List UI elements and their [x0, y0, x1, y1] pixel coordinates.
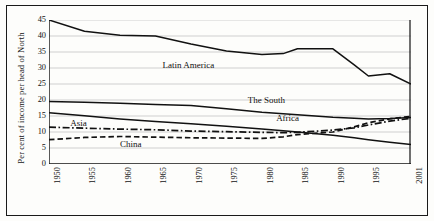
series-label-latin-america: Latin America: [163, 60, 215, 70]
x-axis-tick-labels: 1950195519601965197019751980198519901995…: [49, 167, 411, 211]
x-tick-label: 1995: [372, 167, 381, 184]
y-tick-label: 40: [38, 32, 46, 40]
series-line-africa: [49, 113, 411, 145]
y-tick-label: 45: [38, 16, 46, 24]
y-axis-tick-labels: 051015202530354045: [25, 20, 46, 164]
y-tick-label: 15: [38, 112, 46, 120]
y-tick-label: 30: [38, 64, 46, 72]
series-line-china: [49, 116, 411, 139]
series-label-asia: Asia: [70, 118, 87, 128]
series-label-china: China: [120, 139, 142, 149]
x-tick-label: 1990: [337, 167, 346, 184]
line-chart-svg: [49, 20, 411, 164]
series-label-the-south: The South: [248, 95, 285, 105]
y-tick-label: 20: [38, 96, 46, 104]
series-label-africa: Africa: [276, 113, 299, 123]
y-tick-label: 35: [38, 48, 46, 56]
x-tick-label: 1970: [195, 167, 204, 184]
chart-figure: Per cent of income per head of North 051…: [0, 0, 434, 221]
x-tick-label: 1960: [124, 167, 133, 184]
gridlines: [49, 20, 411, 164]
series-paths: [49, 20, 411, 144]
y-tick-label: 25: [38, 80, 46, 88]
x-tick-label: 1980: [266, 167, 275, 184]
y-tick-label: 5: [42, 144, 46, 152]
x-tick-label: 1985: [301, 167, 310, 184]
plot-area: Latin AmericaThe SouthAfricaAsiaChina: [49, 20, 411, 164]
y-tick-label: 10: [38, 128, 46, 136]
x-tick-label: 1955: [88, 167, 97, 184]
x-tick-label: 1950: [53, 167, 62, 184]
axis-lines: [49, 20, 411, 164]
x-tick-label: 1965: [159, 167, 168, 184]
x-tick-label: 1975: [230, 167, 239, 184]
x-tick-label: 2001: [415, 167, 424, 184]
y-tick-label: 0: [42, 160, 46, 168]
